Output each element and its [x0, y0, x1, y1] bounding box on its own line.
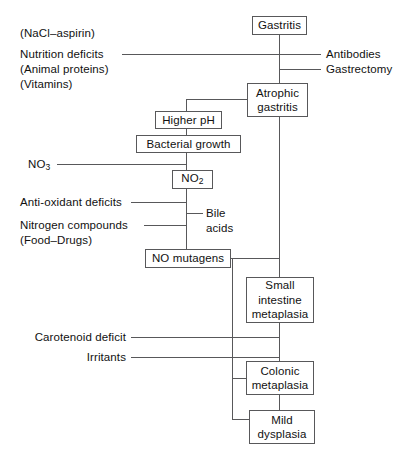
line-bacterial-to-no2	[186, 152, 187, 171]
node-small-intestine-line1: Small	[265, 278, 294, 293]
line-colonic-to-mild-dysplasia	[279, 394, 280, 411]
label-nutrition-deficits: Nutrition deficits	[20, 47, 104, 62]
node-no2-label: NO2	[181, 171, 203, 188]
node-no-mutagens-label: NO mutagens	[152, 251, 224, 266]
line-antioxidant-to-branch	[131, 202, 187, 203]
node-bacterial-growth-label: Bacterial growth	[146, 137, 230, 152]
line-trunk-to-gastrectomy	[279, 69, 321, 70]
node-mild-dysplasia-line2: dysplasia	[258, 427, 307, 442]
label-carotenoid-deficit: Carotenoid deficit	[0, 330, 126, 345]
label-bile-acids-line1: Bile	[206, 206, 233, 221]
node-no2-subscript: 2	[199, 176, 204, 186]
node-higher-ph[interactable]: Higher pH	[155, 111, 222, 129]
line-branch-to-bile-acids	[186, 213, 203, 214]
line-column-to-colonic	[232, 378, 246, 379]
line-irritants-to-trunk	[131, 357, 280, 358]
node-atrophic-gastritis-line1: Atrophic	[256, 86, 299, 101]
label-animal-proteins: (Animal proteins)	[20, 62, 109, 77]
line-atrophic-to-higherph-elbow	[186, 99, 247, 100]
label-anti-oxidant-deficits: Anti-oxidant deficits	[20, 195, 122, 210]
node-atrophic-gastritis[interactable]: Atrophic gastritis	[247, 83, 308, 117]
trunk-atrophic-to-bottom	[279, 116, 280, 278]
label-no3-subscript: 3	[45, 162, 50, 172]
trunk-gastritis-to-atrophic	[279, 34, 280, 83]
diagram-canvas: Gastritis Atrophic gastritis Higher pH B…	[0, 0, 413, 460]
column-no-mutagens-down	[232, 258, 233, 419]
label-food-drugs: (Food–Drugs)	[20, 233, 92, 248]
node-atrophic-gastritis-line2: gastritis	[257, 100, 298, 115]
line-small-intestine-down	[279, 322, 280, 362]
node-no2[interactable]: NO2	[172, 170, 213, 189]
line-no3-to-branch	[57, 164, 187, 165]
node-mild-dysplasia[interactable]: Mild dysplasia	[249, 410, 315, 444]
node-gastritis-label: Gastritis	[258, 18, 301, 33]
label-no3-base: NO	[28, 158, 45, 170]
label-antibodies: Antibodies	[326, 47, 381, 62]
label-gastrectomy: Gastrectomy	[326, 62, 392, 77]
node-small-intestine-line2: intestine	[258, 293, 302, 308]
label-nacl-aspirin: (NaCl–aspirin)	[20, 26, 95, 41]
label-nitrogen-compounds: Nitrogen compounds	[20, 218, 128, 233]
node-gastritis[interactable]: Gastritis	[252, 16, 307, 35]
label-bile-acids-line2: acids	[206, 221, 233, 236]
label-irritants: Irritants	[0, 350, 126, 365]
line-carotenoid-to-trunk	[131, 337, 280, 338]
node-no2-base: NO	[181, 172, 198, 184]
node-small-intestine-line3: metaplasia	[252, 307, 309, 322]
node-small-intestine-metaplasia[interactable]: Small intestine metaplasia	[246, 277, 314, 323]
line-column-to-mild-dysplasia	[232, 419, 249, 420]
node-mild-dysplasia-line1: Mild	[271, 413, 293, 428]
node-bacterial-growth[interactable]: Bacterial growth	[136, 135, 241, 153]
node-higher-ph-label: Higher pH	[162, 113, 215, 128]
line-nitrogen-to-branch	[144, 225, 187, 226]
label-vitamins: (Vitamins)	[20, 77, 73, 92]
label-no3: NO3	[28, 157, 50, 175]
line-nutrition-to-antibodies	[122, 54, 321, 55]
line-no-mutagens-to-right-column	[230, 258, 280, 259]
node-colonic-metaplasia[interactable]: Colonic metaplasia	[246, 361, 314, 395]
line-no2-to-no-mutagens	[186, 188, 187, 249]
node-no-mutagens[interactable]: NO mutagens	[145, 249, 231, 268]
node-colonic-metaplasia-line1: Colonic	[260, 364, 299, 379]
node-colonic-metaplasia-line2: metaplasia	[252, 378, 309, 393]
label-bile-acids: Bile acids	[206, 206, 233, 236]
